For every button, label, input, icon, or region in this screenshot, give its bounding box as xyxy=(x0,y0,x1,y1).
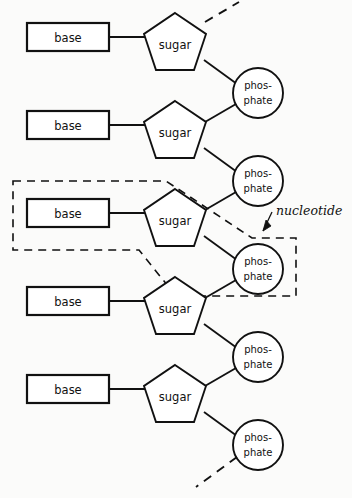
phosphate-circle-2 xyxy=(233,156,283,206)
phosphate-label-4-line1: phos- xyxy=(244,344,272,355)
phosphate-circle-1 xyxy=(233,68,283,118)
phosphate-circle-5 xyxy=(233,420,283,470)
phosphate-label-5-line2: phate xyxy=(244,447,273,458)
base-label-3: base xyxy=(54,207,81,221)
canvas-background xyxy=(0,0,352,498)
base-label-1: base xyxy=(54,31,81,45)
callout-text: nucleotide xyxy=(276,203,342,218)
sugar-label-3: sugar xyxy=(159,214,192,228)
sugar-label-1: sugar xyxy=(159,38,192,52)
sugar-label-5: sugar xyxy=(159,390,192,404)
phosphate-label-5-line1: phos- xyxy=(244,432,272,443)
phosphate-label-3-line1: phos- xyxy=(244,256,272,267)
sugar-label-2: sugar xyxy=(159,126,192,140)
nucleotide-chain-diagram: base sugar phos- phate base sugar phos- … xyxy=(0,0,352,498)
phosphate-label-2-line1: phos- xyxy=(244,168,272,179)
phosphate-label-2-line2: phate xyxy=(244,183,273,194)
phosphate-label-1-line2: phate xyxy=(244,95,273,106)
phosphate-circle-3 xyxy=(233,244,283,294)
phosphate-label-1-line1: phos- xyxy=(244,80,272,91)
base-label-5: base xyxy=(54,383,81,397)
base-label-4: base xyxy=(54,295,81,309)
sugar-label-4: sugar xyxy=(159,302,192,316)
base-label-2: base xyxy=(54,119,81,133)
phosphate-label-4-line2: phate xyxy=(244,359,273,370)
diagram-canvas: base sugar phos- phate base sugar phos- … xyxy=(0,0,352,498)
phosphate-circle-4 xyxy=(233,332,283,382)
phosphate-label-3-line2: phate xyxy=(244,271,273,282)
